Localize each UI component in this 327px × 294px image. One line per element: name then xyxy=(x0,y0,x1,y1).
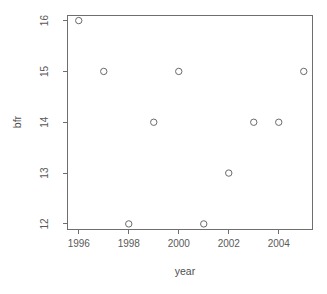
plot-canvas: 1213141516 19961998200020022004 year bfr xyxy=(0,0,327,294)
y-axis-tick-label: 16 xyxy=(39,15,50,27)
y-axis-tick-label: 14 xyxy=(39,116,50,128)
x-axis-tick-label: 2004 xyxy=(268,238,291,249)
x-axis-tick-label: 1996 xyxy=(68,238,91,249)
y-axis-tick-label: 15 xyxy=(39,65,50,77)
x-axis-tick-label: 1998 xyxy=(118,238,141,249)
scatter-plot-figure: 1213141516 19961998200020022004 year bfr xyxy=(0,0,327,294)
y-axis-tick-label: 13 xyxy=(39,167,50,179)
x-axis-title: year xyxy=(175,265,196,277)
y-axis-title: bfr xyxy=(11,115,23,128)
figure-background xyxy=(0,0,327,294)
y-axis-tick-label: 12 xyxy=(39,218,50,230)
x-axis-tick-label: 2000 xyxy=(168,238,191,249)
x-axis-tick-label: 2002 xyxy=(218,238,241,249)
